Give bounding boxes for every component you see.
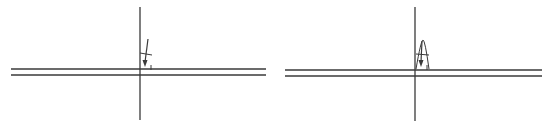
left-panel: [11, 7, 266, 120]
diagram-canvas: [0, 0, 550, 131]
arrow-head-icon: [419, 60, 424, 67]
arrow-head-icon: [143, 60, 148, 67]
right-panel: [285, 7, 542, 121]
arrow-shaft: [145, 39, 148, 62]
